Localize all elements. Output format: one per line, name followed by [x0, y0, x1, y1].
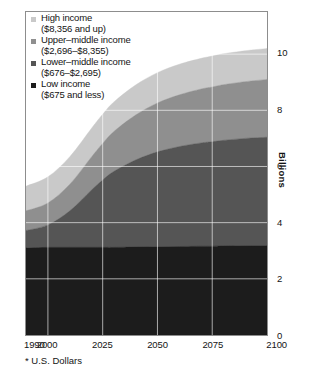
- legend-swatch-high-income: [31, 17, 36, 22]
- legend-label-high-income: High income: [41, 13, 171, 24]
- x-tick-2100: 2100: [266, 340, 287, 350]
- area-band-low-income: [26, 246, 267, 335]
- legend-swatch-upper-middle-income: [31, 39, 36, 44]
- legend-range-low-income: ($675 and less): [41, 90, 171, 101]
- legend-item-high-income: High income ($8,356 and up): [31, 13, 171, 34]
- x-tick-2075: 2075: [202, 340, 223, 350]
- legend-swatch-lower-middle-income: [31, 61, 36, 66]
- legend-item-lower-middle-income: Lower–middle income ($676–$2,695): [31, 57, 171, 78]
- legend-range-lower-middle-income: ($676–$2,695): [41, 68, 171, 79]
- y-tick-2: 2: [277, 274, 282, 284]
- legend-label-low-income: Low income: [41, 79, 171, 90]
- y-tick-8: 8: [277, 105, 282, 115]
- chart-legend: High income ($8,356 and up) Upper–middle…: [31, 13, 171, 101]
- x-tick-2025: 2025: [92, 340, 113, 350]
- chart-footnote: * U.S. Dollars: [25, 355, 82, 366]
- legend-item-low-income: Low income ($675 and less): [31, 79, 171, 100]
- y-tick-0: 0: [277, 331, 282, 341]
- x-tick-2000: 2000: [37, 340, 58, 350]
- y-tick-10: 10: [277, 48, 288, 58]
- legend-swatch-low-income: [31, 83, 36, 88]
- y-axis-title: Billions: [277, 152, 288, 188]
- legend-label-upper-middle-income: Upper–middle income: [41, 35, 171, 46]
- y-tick-4: 4: [277, 218, 282, 228]
- legend-label-lower-middle-income: Lower–middle income: [41, 57, 171, 68]
- legend-range-upper-middle-income: ($2,696–$8,355): [41, 46, 171, 57]
- legend-range-high-income: ($8,356 and up): [41, 24, 171, 35]
- population-by-income-area-chart: High income ($8,356 and up) Upper–middle…: [0, 0, 317, 382]
- x-tick-2050: 2050: [147, 340, 168, 350]
- legend-item-upper-middle-income: Upper–middle income ($2,696–$8,355): [31, 35, 171, 56]
